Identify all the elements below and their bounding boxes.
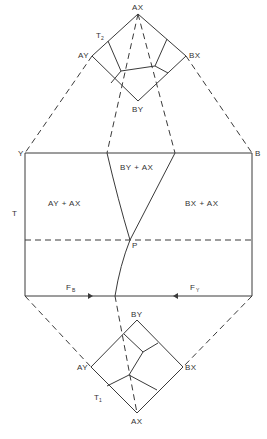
bottom-ay-label: AY xyxy=(77,363,88,372)
bottom-ax-label: AX xyxy=(131,417,143,426)
top-t-sub: 2 xyxy=(101,35,104,41)
axis-t-label: T xyxy=(12,209,17,218)
top-diamond xyxy=(92,14,186,153)
region-left-label: AY + AX xyxy=(48,199,81,208)
flux-right-label: F xyxy=(190,283,195,292)
connector-y xyxy=(25,56,92,153)
flux-left-label: F xyxy=(66,283,71,292)
region-middle-label: BY + AX xyxy=(120,163,154,172)
connector-bottom-left xyxy=(25,296,91,367)
bottom-t-sub: 1 xyxy=(99,397,102,403)
top-ay-label: AY xyxy=(78,51,89,60)
arrow-left-icon xyxy=(173,293,178,299)
corner-b-label: B xyxy=(255,149,261,158)
connector-bottom-right xyxy=(183,296,252,367)
top-by-label: BY xyxy=(132,105,144,114)
top-ax-label: AX xyxy=(132,3,144,12)
region-right-label: BX + AX xyxy=(185,199,219,208)
flux-right-sub: Y xyxy=(196,287,200,293)
top-bx-label: BX xyxy=(189,51,201,60)
main-field xyxy=(25,153,252,299)
point-p-label: P xyxy=(132,241,138,250)
bottom-by-label: BY xyxy=(131,310,143,319)
connector-b xyxy=(186,56,252,153)
corner-y-label: Y xyxy=(18,149,24,158)
bottom-bx-label: BX xyxy=(185,363,197,372)
flux-left-sub: B xyxy=(72,287,76,293)
phase-diagram: AX AY BX BY T 2 Y B T AY + AX BY + AX BX… xyxy=(0,0,267,439)
arrow-right-icon xyxy=(88,293,93,299)
